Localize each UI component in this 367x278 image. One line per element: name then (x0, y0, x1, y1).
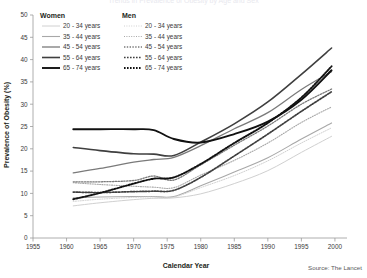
chart-legend: Women20 - 34 years35 - 44 years45 - 54 y… (40, 12, 182, 72)
legend-group-title: Women (40, 12, 65, 19)
x-tick-label: 1955 (26, 243, 41, 250)
chart-plot-svg: 05101520253035404550 1955196019651970197… (0, 0, 367, 278)
legend-entry-label: 20 - 34 years (145, 22, 182, 30)
series-line (73, 89, 331, 182)
x-tick-label: 1975 (160, 243, 175, 250)
series-line (73, 136, 331, 206)
y-tick-label: 40 (20, 56, 28, 63)
legend-entry-label: 35 - 44 years (63, 33, 100, 41)
series-line (73, 123, 331, 198)
obesity-prevalence-chart: Trends in Prevalence of Obesity by Age a… (0, 0, 367, 278)
x-tick-label: 1990 (261, 243, 276, 250)
data-series-group (73, 48, 331, 206)
y-tick-label: 20 (20, 145, 28, 152)
legend-entry-label: 55 - 64 years (63, 54, 100, 62)
x-tick-label: 1995 (294, 243, 309, 250)
x-tick-label: 1970 (127, 243, 142, 250)
y-axis-title: Prevalence of Obesity (%) (3, 82, 11, 168)
series-line (73, 66, 331, 199)
y-tick-label: 10 (20, 190, 28, 197)
legend-entry-label: 20 - 34 years (63, 22, 100, 30)
x-tick-label: 1980 (194, 243, 209, 250)
x-axis-title: Calendar Year (163, 262, 210, 269)
x-tick-label: 2000 (328, 243, 343, 250)
y-tick-label: 30 (20, 101, 28, 108)
y-tick-label: 50 (20, 11, 28, 18)
x-axis: 1955196019651970197519801985199019952000 (26, 238, 347, 250)
x-tick-label: 1985 (227, 243, 242, 250)
legend-entry-label: 65 - 74 years (63, 64, 100, 72)
legend-entry-label: 45 - 54 years (63, 43, 100, 51)
y-tick-label: 25 (20, 123, 28, 130)
x-tick-label: 1960 (59, 243, 74, 250)
x-tick-label: 1965 (93, 243, 108, 250)
y-axis: 05101520253035404550 (20, 11, 33, 241)
legend-entry-label: 35 - 44 years (145, 33, 182, 41)
legend-entry-label: 55 - 64 years (145, 54, 182, 62)
series-line (73, 48, 331, 156)
y-tick-label: 0 (24, 234, 28, 241)
source-note: Source: The Lancet (308, 264, 362, 271)
legend-entry-label: 65 - 74 years (145, 64, 182, 72)
legend-entry-label: 45 - 54 years (145, 43, 182, 51)
legend-group-title: Men (122, 12, 136, 19)
y-tick-label: 5 (24, 212, 28, 219)
y-tick-label: 35 (20, 78, 28, 85)
y-tick-label: 15 (20, 167, 28, 174)
y-tick-label: 45 (20, 34, 28, 41)
